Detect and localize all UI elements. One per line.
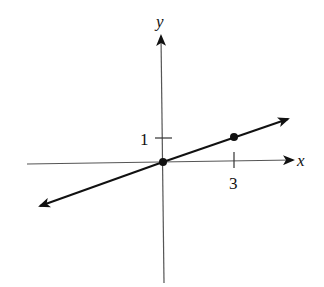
graphed-line <box>163 119 288 162</box>
point-origin <box>159 158 167 166</box>
coordinate-plane: y x 1 3 <box>0 0 324 287</box>
y-tick-label-1: 1 <box>140 130 149 149</box>
y-axis-label: y <box>154 12 164 31</box>
x-tick-label-3: 3 <box>229 174 238 193</box>
x-axis-label: x <box>296 151 305 170</box>
point-3-1 <box>230 133 238 141</box>
graphed-line-lower <box>40 162 163 206</box>
